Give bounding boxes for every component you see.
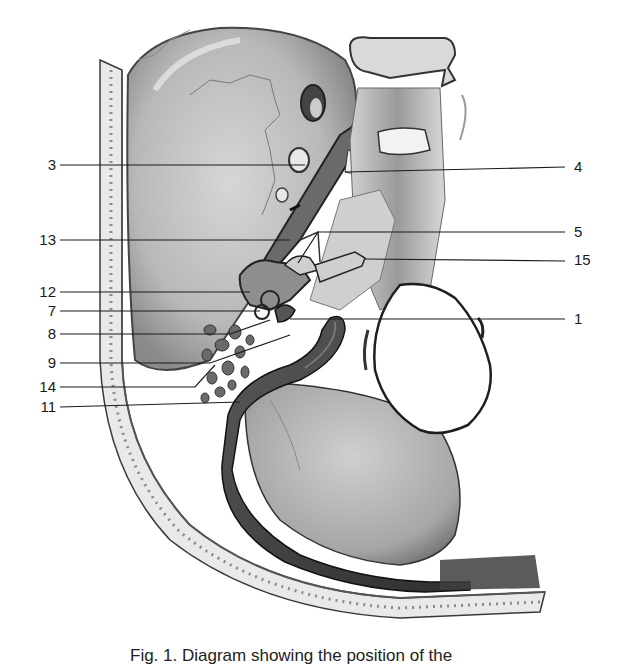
label-12: 12 xyxy=(28,284,56,299)
label-4: 4 xyxy=(574,159,582,174)
label-9: 9 xyxy=(28,355,56,370)
label-14: 14 xyxy=(28,379,56,394)
label-3: 3 xyxy=(28,157,56,172)
foramen-spinosum xyxy=(289,148,309,172)
label-11: 11 xyxy=(28,399,56,414)
figure-caption: Fig. 1. Diagram showing the position of … xyxy=(130,646,452,666)
label-1: 1 xyxy=(574,311,582,326)
label-7: 7 xyxy=(28,303,56,318)
label-8: 8 xyxy=(28,326,56,341)
occipital-dark-band xyxy=(440,555,540,590)
label-5: 5 xyxy=(574,224,582,239)
label-13: 13 xyxy=(28,232,56,247)
label-15: 15 xyxy=(574,252,591,267)
